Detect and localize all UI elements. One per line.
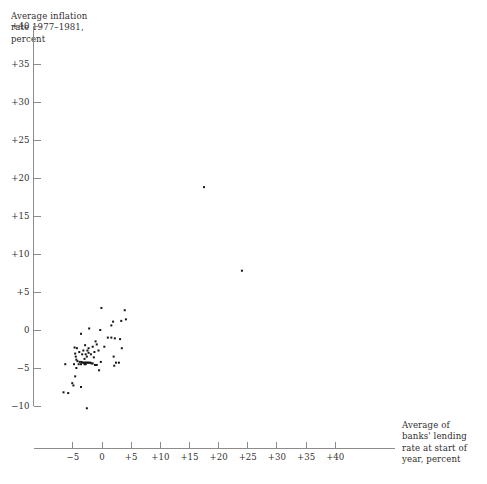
data-point: [85, 363, 87, 365]
data-point: [85, 353, 87, 355]
data-point: [88, 352, 90, 354]
y-tick-label: +10: [11, 249, 29, 259]
x-tick-label: +40: [326, 452, 344, 462]
y-tick-label: +30: [11, 97, 29, 107]
data-point: [110, 324, 112, 326]
data-point: [115, 362, 117, 364]
data-point: [92, 346, 94, 348]
data-point: [73, 363, 75, 365]
data-point: [76, 347, 78, 349]
data-point: [100, 307, 102, 309]
x-tick-label: +20: [210, 452, 228, 462]
x-tick-label: +25: [239, 452, 257, 462]
y-axis: +40+35+30+25+20+15+10+50−5−10: [11, 21, 40, 411]
data-point: [88, 327, 90, 329]
x-tick-label: −5: [67, 452, 80, 462]
data-point: [72, 384, 74, 386]
data-point: [96, 364, 98, 366]
data-point: [94, 364, 96, 366]
data-point: [93, 351, 95, 353]
data-point: [84, 358, 86, 360]
data-point: [63, 391, 65, 393]
data-point: [118, 362, 120, 364]
plot-canvas: +40+35+30+25+20+15+10+50−5−10 −50+5+10+1…: [0, 0, 487, 484]
data-point: [96, 343, 98, 345]
data-point: [67, 392, 69, 394]
x-tick-label: +15: [180, 452, 198, 462]
data-point: [114, 337, 116, 339]
data-point: [112, 321, 114, 323]
x-tick-label: +35: [297, 452, 315, 462]
y-tick-label: −5: [17, 363, 30, 373]
y-tick-label: +20: [11, 173, 29, 183]
data-point: [95, 340, 97, 342]
y-tick-label: +40: [11, 21, 29, 31]
data-point: [80, 333, 82, 335]
data-point: [71, 382, 73, 384]
data-point: [81, 353, 83, 355]
data-point: [75, 367, 77, 369]
data-point: [74, 375, 76, 377]
data-points: [63, 186, 243, 409]
data-point: [78, 351, 80, 353]
data-point: [98, 369, 100, 371]
data-point: [86, 350, 88, 352]
scatter-plot-figure: Average inflation rate 1977–1981, percen…: [0, 0, 487, 484]
x-tick-label: 0: [99, 452, 104, 462]
x-tick-label: +30: [268, 452, 286, 462]
data-point: [77, 360, 79, 362]
data-point: [121, 347, 123, 349]
data-point: [88, 347, 90, 349]
data-point: [86, 407, 88, 409]
data-point: [90, 353, 92, 355]
data-point: [113, 356, 115, 358]
y-tick-label: +25: [11, 135, 29, 145]
data-point: [78, 363, 80, 365]
data-point: [241, 270, 243, 272]
data-point: [64, 363, 66, 365]
data-point: [86, 356, 88, 358]
y-tick-label: +35: [11, 59, 29, 69]
data-point: [92, 362, 94, 364]
data-point: [99, 329, 101, 331]
data-point: [119, 338, 121, 340]
data-point: [98, 350, 100, 352]
y-tick-label: +15: [11, 211, 29, 221]
data-point: [80, 386, 82, 388]
data-point: [203, 186, 205, 188]
data-point: [100, 361, 102, 363]
data-point: [93, 356, 95, 358]
data-point: [103, 346, 105, 348]
data-point: [74, 346, 76, 348]
y-tick-label: 0: [24, 325, 29, 335]
data-point: [79, 361, 81, 363]
data-point: [120, 320, 122, 322]
data-point: [82, 350, 84, 352]
data-point: [80, 363, 82, 365]
data-point: [74, 353, 76, 355]
data-point: [124, 309, 126, 311]
x-tick-label: +10: [151, 452, 169, 462]
data-point: [75, 356, 77, 358]
x-tick-label: +5: [125, 452, 138, 462]
x-axis: −50+5+10+15+20+25+30+35+40: [34, 442, 396, 462]
data-point: [113, 365, 115, 367]
y-tick-label: −10: [11, 401, 29, 411]
data-point: [110, 337, 112, 339]
data-point: [107, 337, 109, 339]
y-tick-label: +5: [17, 287, 30, 297]
data-point: [125, 318, 127, 320]
data-point: [84, 344, 86, 346]
